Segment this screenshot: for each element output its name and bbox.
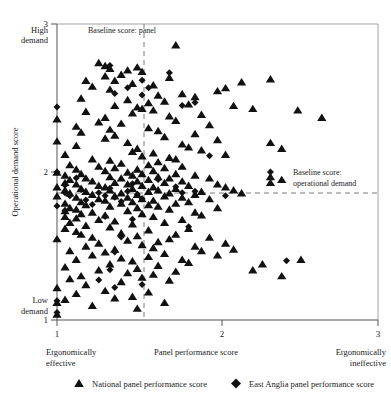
series-east-anglia-markers [54,62,291,316]
data-point-national [205,174,214,181]
legend-diamond-icon [231,379,241,389]
data-point-national [197,111,206,118]
data-point-national [178,90,187,97]
data-point-national [81,281,90,288]
data-point-national [52,284,61,291]
data-point-east-anglia [179,189,186,196]
y-tick-label-1: 1 [44,315,49,325]
data-point-national [137,273,146,280]
data-point-national [178,162,187,169]
data-point-national [205,195,214,202]
data-point-national [133,63,142,70]
data-point-national [88,233,97,240]
data-point-national [94,266,103,273]
high-demand-label-line1: High [31,25,49,35]
data-point-national [266,139,275,146]
data-point-national [258,260,267,267]
data-point-east-anglia [166,69,173,76]
baseline-panel-annotation: Baseline score: panel [88,26,157,35]
data-point-national [171,230,180,237]
data-point-national [149,106,158,113]
data-point-east-anglia [179,102,186,109]
data-point-national [110,217,119,224]
data-point-national [94,162,103,169]
data-point-national [160,219,169,226]
data-point-national [133,232,142,239]
data-point-national [76,272,85,279]
data-point-national [72,142,81,149]
data-point-national [81,222,90,229]
data-point-national [101,287,110,294]
y-tick-label-2: 2 [44,167,49,177]
data-point-national [52,235,61,242]
data-point-national [149,196,158,203]
data-point-national [128,257,137,264]
series-national-markers [52,41,326,318]
data-point-national [221,151,230,158]
data-point-east-anglia [111,194,118,201]
data-point-national [149,270,158,277]
x-tick-label-2: 2 [220,329,225,339]
data-point-national [52,183,61,190]
data-point-national [101,134,110,141]
data-point-national [72,256,81,263]
data-point-national [154,91,163,98]
data-point-national [117,119,126,126]
data-point-national [137,152,146,159]
data-point-national [117,159,126,166]
x-axis-title: Panel performance score [154,347,238,357]
data-point-national [101,72,110,79]
data-point-national [149,213,158,220]
x-tick-label-1: 1 [55,329,60,339]
data-point-national [101,248,110,255]
data-point-national [81,77,90,84]
data-point-national [88,251,97,258]
data-point-national [213,204,222,211]
data-point-national [133,265,142,272]
data-point-east-anglia [139,281,146,288]
data-point-national [277,145,286,152]
data-point-national [101,114,110,121]
data-point-national [229,102,238,109]
data-point-national [266,75,275,82]
data-point-east-anglia [139,77,146,84]
data-point-national [154,127,163,134]
data-point-national [190,208,199,215]
baseline-operational-annotation-line2: operational demand [293,179,356,188]
data-point-national [88,155,97,162]
data-point-national [72,122,81,129]
data-point-national [65,247,74,254]
data-point-national [154,262,163,269]
data-point-national [60,171,69,178]
data-point-national [178,177,187,184]
data-point-national [171,267,180,274]
data-point-national [165,276,174,283]
data-point-national [317,114,326,121]
chart-legend: National panel performance score East An… [74,379,374,390]
scatter-chart-figure: 3 2 1 1 2 3 High demand Low demand Ergon… [0,0,391,399]
data-point-national [171,41,180,48]
data-point-national [178,140,187,147]
data-point-national [137,241,146,248]
legend-label-east-anglia: East Anglia panel performance score [249,379,374,389]
data-point-national [117,278,126,285]
data-point-national [154,238,163,245]
data-point-national [76,94,85,101]
data-point-national [213,251,222,258]
data-point-national [144,124,153,131]
data-point-national [110,294,119,301]
data-point-national [60,296,69,303]
data-point-east-anglia [129,216,136,223]
data-point-national [123,207,132,214]
data-point-east-anglia [206,152,213,159]
data-point-national [60,199,69,206]
data-point-national [133,304,142,311]
x-tick-label-3: 3 [376,329,381,339]
data-point-national [123,269,132,276]
low-demand-label-line1: Low [32,295,48,305]
data-point-national [184,100,193,107]
ergonomically-ineffective-line1: Ergonomically [336,347,387,357]
data-point-national [72,290,81,297]
legend-label-national: National panel performance score [92,379,207,389]
low-demand-label-line2: demand [21,306,49,316]
